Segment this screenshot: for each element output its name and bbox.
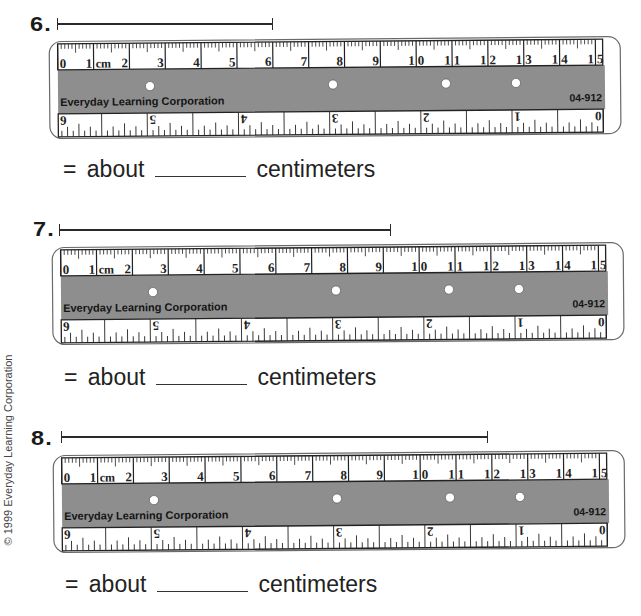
answer-blank[interactable] (156, 368, 247, 385)
cm-label: 3 (528, 258, 535, 273)
inch-label: 6 (63, 527, 70, 542)
cm-label: 1 (556, 466, 563, 481)
cm-label: 1 (458, 466, 465, 481)
cm-label: 6 (265, 54, 272, 69)
problem-number: 8. (31, 427, 53, 448)
cm-label: 8 (340, 467, 347, 482)
hole-icon (515, 492, 524, 501)
inch-label: 3 (334, 317, 341, 332)
line-segment (61, 431, 488, 443)
cm-label: 4 (561, 51, 568, 66)
ruler-product-code: 04-912 (569, 91, 602, 103)
cm-label: cm (99, 262, 114, 276)
ruler-product-code: 04-912 (572, 297, 605, 309)
cm-label: 1 (448, 466, 455, 481)
cm-label: 1 (447, 258, 454, 273)
inch-label: 1 (517, 315, 524, 330)
centimeter-ruler: Everyday Learning Corporation04-91201234… (53, 455, 633, 555)
inch-scale: 0123456 (62, 523, 607, 551)
cm-label: 1 (90, 470, 97, 485)
hole-icon (441, 79, 450, 88)
cm-label: 4 (196, 261, 203, 276)
centimeter-ruler: Everyday Learning Corporation04-91201234… (52, 247, 632, 347)
cm-label: 7 (304, 260, 311, 275)
cm-label: 0 (64, 470, 71, 485)
cm-label: 6 (269, 468, 276, 483)
inch-label: 2 (426, 316, 433, 331)
ruler-band: Everyday Learning Corporation04-912 (62, 479, 609, 528)
inch-label: 4 (243, 318, 250, 333)
inch-label: 5 (153, 527, 160, 542)
cm-label: 3 (529, 466, 536, 481)
hole-icon (332, 494, 341, 503)
cm-scale: 0123456789101112131415cm (62, 453, 608, 485)
problem-number: 7. (33, 218, 55, 239)
cm-label: 1 (587, 51, 594, 66)
cm-label: 4 (193, 55, 200, 70)
inch-label: 5 (149, 113, 156, 128)
cm-scale: 0123456789101112131415cm (58, 39, 604, 71)
cm-label: 3 (161, 469, 168, 484)
cm-label: 1 (408, 53, 415, 68)
cm-label: 5 (233, 468, 240, 483)
centimeter-ruler: Everyday Learning Corporation04-91201234… (49, 41, 629, 141)
answer-prefix: = about (64, 364, 145, 390)
inch-label: 4 (240, 112, 247, 127)
inch-label: 0 (598, 315, 605, 330)
ruler-graphic: Everyday Learning Corporation04-91201234… (52, 242, 633, 347)
cm-label: 9 (372, 53, 379, 68)
cm-label: 8 (339, 259, 346, 274)
inch-label: 3 (331, 111, 338, 126)
inch-label: 6 (62, 319, 69, 334)
cm-label: 1 (412, 467, 419, 482)
cm-label: 2 (121, 55, 128, 70)
cm-label: 1 (457, 258, 464, 273)
inch-label: 1 (514, 109, 521, 124)
answer-blank[interactable] (155, 160, 246, 177)
cm-label: cm (100, 470, 115, 484)
inch-label: 2 (423, 110, 430, 125)
cm-label: 1 (591, 465, 598, 480)
cm-label: 7 (301, 54, 308, 69)
answer-blank[interactable] (157, 575, 248, 592)
line-segment (57, 18, 273, 30)
answer-unit: centimeters (257, 364, 376, 390)
problem-number: 6. (30, 13, 52, 34)
cm-label: 9 (375, 259, 382, 274)
cm-label: 2 (125, 469, 132, 484)
cm-label: 7 (305, 468, 312, 483)
cm-label: 4 (565, 465, 572, 480)
inch-label: 4 (244, 526, 251, 541)
cm-label: 5 (601, 465, 608, 480)
answer-prefix: = about (65, 571, 146, 597)
cm-label: 5 (600, 257, 607, 272)
hole-icon (145, 81, 154, 90)
cm-label: 1 (519, 258, 526, 273)
hole-icon (149, 495, 158, 504)
cm-label: 0 (63, 262, 70, 277)
cm-label: 1 (480, 52, 487, 67)
answer-row: = aboutcentimeters (65, 573, 377, 596)
cm-label: 1 (411, 259, 418, 274)
inch-label: 2 (427, 524, 434, 539)
cm-label: 2 (492, 258, 499, 273)
hole-icon (148, 287, 157, 296)
hole-icon (445, 493, 454, 502)
cm-label: 0 (421, 259, 428, 274)
line-segment (59, 224, 391, 236)
ruler-product-code: 04-912 (573, 505, 606, 517)
cm-label: 1 (444, 52, 451, 67)
cm-label: 8 (336, 53, 343, 68)
cm-label: 1 (555, 258, 562, 273)
cm-label: 5 (597, 51, 604, 66)
cm-label: 4 (564, 257, 571, 272)
cm-label: 2 (124, 261, 131, 276)
answer-row: = aboutcentimeters (64, 366, 376, 389)
ruler-brand: Everyday Learning Corporation (60, 94, 225, 107)
answer-row: = aboutcentimeters (63, 158, 375, 181)
inch-scale: 0123456 (61, 315, 606, 343)
ruler-band: Everyday Learning Corporation04-912 (58, 65, 605, 114)
cm-label: 1 (454, 52, 461, 67)
inch-label: 0 (595, 109, 602, 124)
cm-label: 6 (268, 260, 275, 275)
